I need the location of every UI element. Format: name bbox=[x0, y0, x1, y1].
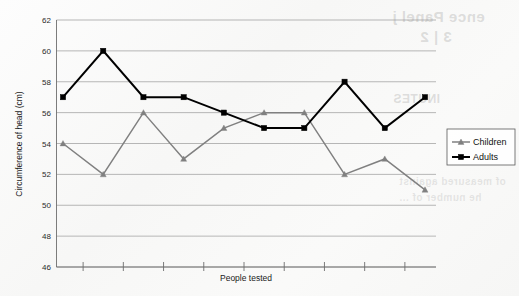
data-point-marker bbox=[422, 95, 427, 100]
line-chart: 464850525456586062 Circumference of head… bbox=[0, 0, 519, 296]
gridlines bbox=[57, 20, 437, 267]
y-tick-label-46: 46 bbox=[42, 263, 51, 272]
y-tick-label-56: 56 bbox=[42, 109, 51, 118]
legend-marker-adults bbox=[458, 154, 463, 159]
data-point-marker bbox=[302, 125, 307, 130]
chart-legend[interactable]: ChildrenAdults bbox=[447, 129, 515, 165]
y-tick-label-62: 62 bbox=[42, 16, 51, 25]
x-axis-label: People tested bbox=[220, 273, 272, 283]
data-point-marker bbox=[382, 156, 388, 161]
legend-label-children[interactable]: Children bbox=[473, 137, 507, 147]
legend-label-adults[interactable]: Adults bbox=[473, 152, 499, 162]
data-point-marker bbox=[262, 125, 267, 130]
x-axis-tick-marks bbox=[83, 262, 405, 271]
y-tick-label-48: 48 bbox=[42, 232, 51, 241]
data-point-marker bbox=[382, 125, 387, 130]
data-point-marker bbox=[101, 48, 106, 53]
data-point-marker bbox=[181, 95, 186, 100]
series-line-children bbox=[63, 113, 425, 190]
y-tick-label-58: 58 bbox=[42, 78, 51, 87]
data-point-marker bbox=[342, 79, 347, 84]
y-axis-label: Circumference of head (cm) bbox=[14, 91, 24, 197]
y-tick-label-52: 52 bbox=[42, 170, 51, 179]
data-point-marker bbox=[141, 95, 146, 100]
series-adults bbox=[60, 48, 427, 130]
y-tick-label-54: 54 bbox=[42, 140, 51, 149]
series-line-adults bbox=[63, 51, 425, 128]
series-children bbox=[60, 110, 428, 193]
data-point-marker bbox=[221, 110, 226, 115]
y-tick-label-60: 60 bbox=[42, 47, 51, 56]
data-point-marker bbox=[60, 95, 65, 100]
y-axis-tick-labels: 464850525456586062 bbox=[42, 16, 51, 272]
y-tick-label-50: 50 bbox=[42, 201, 51, 210]
